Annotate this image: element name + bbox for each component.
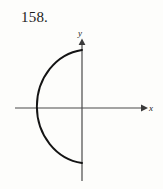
y-axis-label: y <box>77 28 82 38</box>
semicircle-curve <box>37 50 82 163</box>
figure-container: 158. x y <box>0 0 163 189</box>
y-axis-arrow-up-icon <box>79 39 86 46</box>
coordinate-plot: x y <box>0 0 163 189</box>
x-axis-arrow-right-icon <box>141 104 148 111</box>
x-axis-label: x <box>148 103 153 113</box>
